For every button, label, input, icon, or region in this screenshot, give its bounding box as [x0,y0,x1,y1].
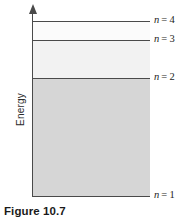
band-n2-n3 [33,41,150,78]
level-label-n4-equals: = [159,14,169,25]
energy-axis-line [32,12,33,197]
level-label-n3: n = 3 [154,34,175,45]
level-label-n3-value: 3 [169,33,174,44]
figure-caption: Figure 10.7 [4,205,66,217]
level-label-n2-equals: = [159,71,169,82]
level-label-n1: n = 1 [154,190,175,201]
level-label-n4: n = 4 [154,15,175,26]
level-label-n4-value: 4 [169,14,174,25]
energy-level-line-n2 [33,78,150,79]
energy-level-diagram: Energy n = 4 n = 3 n = 2 n = 1 [0,0,192,200]
energy-level-line-n4 [33,21,150,22]
figure-container: Energy n = 4 n = 3 n = 2 n = 1 Figure 10… [0,0,192,224]
level-label-n2: n = 2 [154,72,175,83]
level-label-n1-value: 1 [169,189,174,200]
band-n1-n2 [33,79,150,196]
energy-level-line-n3 [33,40,150,41]
energy-level-line-n1 [33,196,150,197]
level-label-n3-equals: = [159,33,169,44]
up-arrow-icon [29,4,37,14]
band-n3-n4 [33,22,150,40]
level-label-n1-equals: = [159,189,169,200]
level-label-n2-value: 2 [169,71,174,82]
y-axis-title: Energy [15,80,26,140]
